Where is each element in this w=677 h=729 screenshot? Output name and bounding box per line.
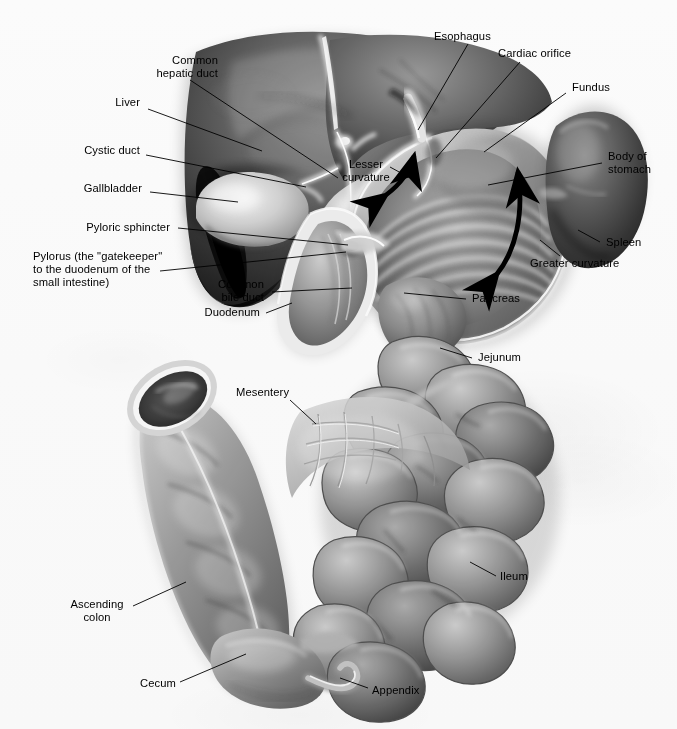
label-cecum: Cecum (118, 677, 176, 690)
label-liver: Liver (68, 96, 140, 109)
label-ascending-colon: Ascending colon (64, 598, 130, 624)
label-appendix: Appendix (372, 684, 432, 697)
label-duodenum: Duodenum (186, 306, 260, 319)
label-esophagus: Esophagus (434, 30, 514, 43)
label-mesentery: Mesentery (236, 386, 306, 399)
label-spleen: Spleen (606, 236, 662, 249)
label-common-bile-duct: Common bile duct (196, 278, 264, 304)
label-pylorus: Pylorus (the "gatekeeper" to the duodenu… (33, 250, 163, 290)
label-body-of-stomach: Body of stomach (608, 150, 674, 176)
label-lesser-curvature: Lesser curvature (332, 158, 400, 184)
label-cardiac-orifice: Cardiac orifice (498, 47, 598, 60)
label-pyloric-sphincter: Pyloric sphincter (60, 221, 170, 234)
label-fundus: Fundus (572, 81, 632, 94)
anatomy-figure: Common hepatic duct Liver Cystic duct Ga… (0, 0, 677, 729)
label-pancreas: Pancreas (472, 292, 542, 305)
label-jejunum: Jejunum (478, 351, 542, 364)
label-common-hepatic-duct: Common hepatic duct (126, 54, 218, 80)
label-cystic-duct: Cystic duct (44, 144, 140, 157)
label-greater-curvature: Greater curvature (530, 257, 640, 270)
label-ileum: Ileum (500, 570, 548, 583)
label-gallbladder: Gallbladder (46, 182, 142, 195)
